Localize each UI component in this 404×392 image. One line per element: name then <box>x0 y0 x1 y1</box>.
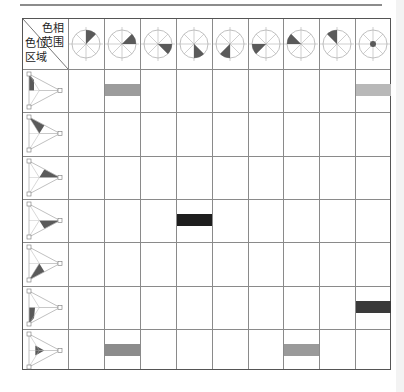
grid-column-divider <box>176 19 177 369</box>
hue-wheel-icon <box>176 19 212 69</box>
grid-row-divider <box>23 329 390 330</box>
grid-column-divider <box>319 19 320 369</box>
grid-row-divider <box>23 69 390 70</box>
position-region-label: 色位 区域 <box>25 37 47 65</box>
grid-row-divider <box>23 242 390 243</box>
color-position-triangle-icon <box>23 112 68 155</box>
match-marker-bar <box>105 344 140 356</box>
match-marker-bar <box>356 301 391 313</box>
match-marker-bar <box>356 84 391 96</box>
grid-column-divider <box>140 19 141 369</box>
grid-row-divider <box>23 199 390 200</box>
grid-column-divider <box>212 19 213 369</box>
hue-label-line1: 色相 <box>42 22 64 36</box>
hue-wheel-icon <box>140 19 176 69</box>
grid-column-divider <box>68 19 69 369</box>
match-marker-bar <box>105 84 140 96</box>
grid-column-divider <box>248 19 249 369</box>
position-label-line1: 色位 <box>25 37 47 51</box>
corner-header-cell: 色相 范围 色位 区域 <box>23 19 68 69</box>
grid-row-divider <box>23 286 390 287</box>
color-position-triangle-icon <box>23 156 68 199</box>
match-marker-bar <box>177 214 212 226</box>
match-marker-bar <box>284 344 319 356</box>
position-label-line2: 区域 <box>25 51 47 65</box>
color-position-triangle-icon <box>23 199 68 242</box>
hue-position-matrix: 色相 范围 色位 区域 <box>22 18 391 370</box>
color-position-triangle-icon <box>23 69 68 112</box>
hue-wheel-icon <box>248 19 284 69</box>
hue-wheel-icon <box>212 19 248 69</box>
grid-row-divider <box>23 156 390 157</box>
color-position-triangle-icon <box>23 286 68 329</box>
hue-wheel-icon <box>68 19 104 69</box>
color-position-triangle-icon <box>23 329 68 372</box>
page-edge <box>396 0 404 392</box>
top-rule <box>20 4 382 6</box>
grid-column-divider <box>355 19 356 369</box>
hue-wheel-icon <box>355 19 391 69</box>
grid-row-divider <box>23 112 390 113</box>
grid-column-divider <box>283 19 284 369</box>
hue-wheel-icon <box>283 19 319 69</box>
hue-wheel-icon <box>104 19 140 69</box>
hue-wheel-icon <box>319 19 355 69</box>
grid-column-divider <box>104 19 105 369</box>
color-position-triangle-icon <box>23 242 68 285</box>
